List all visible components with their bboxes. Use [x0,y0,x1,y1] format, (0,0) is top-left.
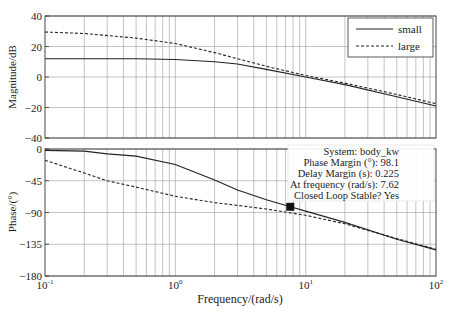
y-axis-label: Magnitude/dB [6,45,18,109]
y-tick-label: −45 [25,175,43,187]
annotation-line: Closed Loop Stable? Yes [294,190,399,201]
y-tick-label: −90 [25,207,43,219]
y-tick-label: −135 [19,238,42,250]
bode-plot: 40200−20−40Magnitude/dB 0−45−90−135−180P… [0,0,453,317]
series-small [45,59,436,106]
x-tick-label: 100 [168,278,183,291]
x-tick-label: 102 [429,278,444,291]
y-tick-label: 0 [37,143,43,155]
data-tip-marker[interactable] [286,203,294,211]
y-tick-label: −20 [25,102,43,114]
y-tick-label: 20 [31,41,43,53]
x-tick-label: 101 [298,278,313,291]
y-axis-label: Phase/(°) [6,191,19,232]
y-tick-label: 0 [37,71,43,83]
x-tick-label: 10-1 [37,278,54,291]
annotation-line: System: body_kw [323,146,399,157]
legend: smalllarge [348,18,433,57]
x-axis-label: Frequency/(rad/s) [197,292,282,306]
legend-label-large: large [398,40,420,52]
y-tick-label: 40 [31,10,43,22]
legend-label-small: small [398,23,422,35]
data-tip-annotation: System: body_kwPhase Margin (°): 98.1Del… [286,145,434,211]
